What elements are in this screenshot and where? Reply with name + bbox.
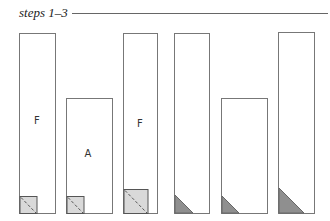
panel-label-3: F [137,118,143,129]
panel-label-1: F [34,115,40,126]
panel-6 [279,33,315,214]
fold-steps-diagram: FAF [0,0,330,221]
panel-4 [175,34,210,214]
panel-5 [222,99,268,214]
panel-label-2: A [85,148,92,159]
